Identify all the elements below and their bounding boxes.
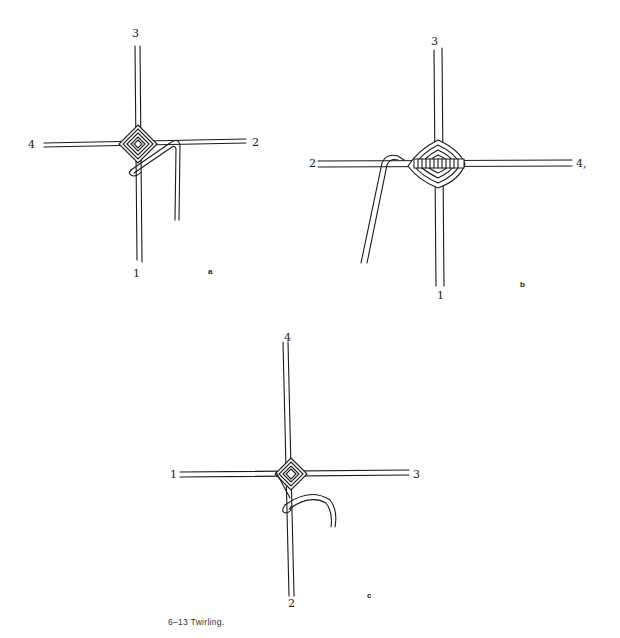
diagram-c-label-left: 1 bbox=[170, 469, 177, 480]
diagram-c-label-right: 3 bbox=[413, 469, 420, 480]
diagram-c-label-top: 4 bbox=[284, 332, 291, 343]
diagram-c-drawing bbox=[0, 0, 620, 638]
diagram-c-label-bottom: 2 bbox=[288, 598, 295, 609]
diagram-c-sublabel: c bbox=[367, 592, 371, 600]
figure-caption: 6–13 Twirling. bbox=[168, 617, 225, 627]
